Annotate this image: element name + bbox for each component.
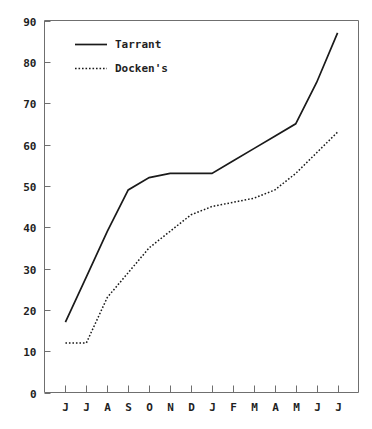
y-tick-label: 80 [23, 57, 36, 70]
y-tick-label: 30 [23, 264, 36, 277]
legend-label-tarrant: Tarrant [115, 38, 161, 51]
x-tick-label: J [62, 401, 69, 414]
chart-canvas: 0102030405060708090 JJASONDJFMAMJJ Tarra… [0, 0, 372, 429]
y-tick-label: 70 [23, 98, 36, 111]
x-tick-label: M [293, 401, 300, 414]
legend-label-dockens: Docken's [115, 62, 168, 75]
x-tick-label: F [230, 401, 237, 414]
x-tick-label: A [272, 401, 279, 414]
y-tick-label: 20 [23, 305, 36, 318]
x-tick-label: J [314, 401, 321, 414]
x-tick-label: A [104, 401, 111, 414]
y-tick-label: 0 [30, 388, 37, 401]
x-tick-label: D [188, 401, 195, 414]
y-tick-label: 10 [23, 346, 36, 359]
y-tick-label: 50 [23, 181, 36, 194]
line-chart-figure: 0102030405060708090 JJASONDJFMAMJJ Tarra… [0, 0, 372, 429]
x-tick-label: S [125, 401, 132, 414]
x-tick-label: N [167, 401, 174, 414]
x-tick-label: J [209, 401, 216, 414]
y-tick-label: 60 [23, 140, 36, 153]
chart-background [0, 0, 372, 429]
y-tick-label: 40 [23, 222, 36, 235]
x-tick-label: J [83, 401, 90, 414]
y-tick-label: 90 [23, 16, 36, 29]
x-tick-label: J [335, 401, 342, 414]
x-tick-label: O [146, 401, 153, 414]
x-tick-label: M [251, 401, 258, 414]
